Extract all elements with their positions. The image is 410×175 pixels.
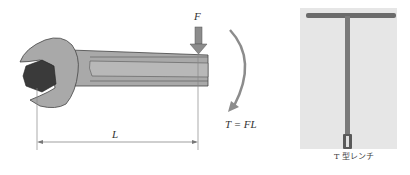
wrench-illustration bbox=[20, 38, 208, 108]
length-dimension bbox=[37, 140, 198, 144]
force-arrow-icon bbox=[190, 27, 207, 54]
wrench-torque-diagram: F L T = FL bbox=[0, 0, 410, 175]
force-label: F bbox=[193, 10, 201, 22]
t-wrench-photo bbox=[300, 8, 397, 149]
torque-rotation-arrow-icon bbox=[228, 30, 245, 112]
hex-nut-icon bbox=[23, 60, 56, 92]
t-wrench-caption: T 型レンチ bbox=[334, 150, 410, 161]
torque-label: T = FL bbox=[225, 118, 257, 130]
length-label: L bbox=[111, 128, 118, 140]
